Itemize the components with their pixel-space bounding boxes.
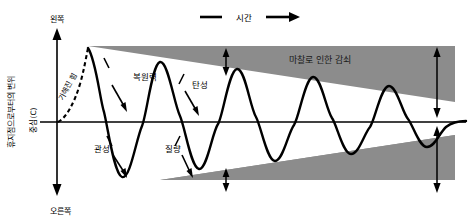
elasticity-leader (185, 91, 196, 110)
restoring-force-leader (112, 85, 124, 106)
time-legend-label: 시간 (236, 13, 252, 23)
axis-label-top: 왼쪽 (50, 15, 64, 24)
mass-leader (182, 155, 190, 172)
time-legend: 시간 (200, 12, 300, 23)
legend-arrow-right-icon (289, 12, 300, 22)
damped-oscillation-diagram: 시간 왼쪽 오른쪽 휴지점으로부터의 변위 중심(C) 가해진 힘 복원력 탄성… (0, 0, 475, 224)
restoring-force-label: 복원력 (133, 72, 157, 82)
damping-label: 마찰로 인한 감쇠 (289, 54, 351, 65)
inertia-label: 관성 (94, 144, 110, 154)
vertical-axis (53, 28, 62, 196)
center-label: 중심(C) (28, 107, 38, 132)
axis-label-bottom: 오른쪽 (50, 207, 71, 216)
elasticity-tick (179, 74, 184, 84)
elasticity-label: 탄성 (192, 80, 208, 90)
restoring-force-tick (104, 58, 109, 68)
vertical-axis-title: 휴지점으로부터의 변위 (6, 76, 16, 149)
axis-arrow-down-icon (53, 184, 62, 196)
mass-label: 질량 (165, 144, 181, 154)
lower-wedge-shape-2 (160, 135, 455, 180)
axis-arrow-up-icon (53, 28, 62, 40)
